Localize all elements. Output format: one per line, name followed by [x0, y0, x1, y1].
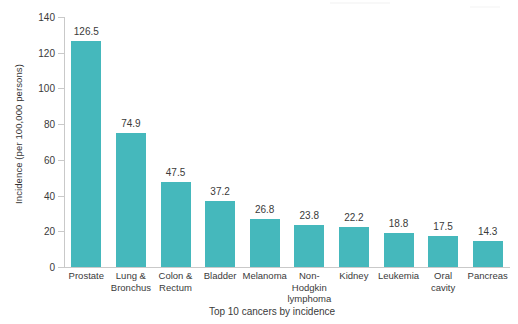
bar[interactable]	[205, 201, 235, 267]
y-axis-tick	[58, 267, 64, 268]
x-axis-title-text: Top 10 cancers by incidence	[209, 306, 335, 317]
x-axis-category-label-line: Lung &	[109, 270, 154, 282]
x-axis-category-label: Colon &Rectum	[153, 270, 198, 293]
x-axis-category-label: Non-Hodgkinlymphoma	[287, 270, 332, 305]
y-axis-tick-label: 0	[49, 262, 55, 273]
bar[interactable]	[428, 236, 458, 267]
bar-group[interactable]: 22.2	[339, 17, 369, 267]
y-axis-tick-label: 120	[38, 47, 55, 58]
bar-group[interactable]: 37.2	[205, 17, 235, 267]
x-axis-category-label-line: cavity	[421, 282, 466, 294]
bar-value-label: 22.2	[344, 212, 363, 223]
bar-group[interactable]: 126.5	[71, 17, 101, 267]
bar-chart: Incidence (per 100,000 persons) 02040608…	[0, 0, 518, 324]
x-axis-category-label: Leukemia	[376, 270, 421, 282]
bar-value-label: 17.5	[433, 221, 452, 232]
bars-layer: 126.574.947.537.226.823.822.218.817.514.…	[64, 17, 510, 267]
x-axis-category-label-line: Kidney	[332, 270, 377, 282]
bar-value-label: 74.9	[121, 118, 140, 129]
y-axis-tick-label: 20	[44, 226, 55, 237]
x-axis-category-label-line: Hodgkin	[287, 282, 332, 294]
bar-group[interactable]: 23.8	[294, 17, 324, 267]
x-axis-category-label: Prostate	[64, 270, 109, 282]
x-axis-category-label: Pancreas	[465, 270, 510, 282]
x-axis-category-labels: ProstateLung &BronchusColon &RectumBladd…	[64, 270, 510, 310]
bar[interactable]	[294, 225, 324, 268]
bar[interactable]	[71, 41, 101, 267]
bar[interactable]	[250, 219, 280, 267]
x-axis-category-label-line: Melanoma	[242, 270, 287, 282]
bar-group[interactable]: 74.9	[116, 17, 146, 267]
x-axis-category-label: Bladder	[198, 270, 243, 282]
y-axis-tick-label: 80	[44, 119, 55, 130]
bar[interactable]	[339, 227, 369, 267]
bar[interactable]	[116, 133, 146, 267]
x-axis-category-label: Oralcavity	[421, 270, 466, 293]
bar-group[interactable]: 17.5	[428, 17, 458, 267]
x-axis-category-label-line: Prostate	[64, 270, 109, 282]
bar-value-label: 37.2	[210, 186, 229, 197]
y-axis-tick-label: 60	[44, 154, 55, 165]
y-axis-title: Incidence (per 100,000 persons)	[12, 10, 26, 258]
x-axis-category-label-line: Oral	[421, 270, 466, 282]
bar-value-label: 14.3	[478, 226, 497, 237]
bar-value-label: 47.5	[166, 167, 185, 178]
x-axis-category-label: Melanoma	[242, 270, 287, 282]
x-axis-line	[64, 267, 510, 268]
y-axis-tick-label: 100	[38, 83, 55, 94]
bar-group[interactable]: 18.8	[384, 17, 414, 267]
x-axis-category-label-line: Bronchus	[109, 282, 154, 294]
x-axis-category-label-line: Bladder	[198, 270, 243, 282]
bar-value-label: 23.8	[300, 210, 319, 221]
scan-artifact	[470, 6, 500, 8]
x-axis-category-label-line: lymphoma	[287, 293, 332, 305]
bar[interactable]	[384, 233, 414, 267]
x-axis-category-label-line: Non-	[287, 270, 332, 282]
plot-area: 020406080100120140 126.574.947.537.226.8…	[64, 17, 510, 267]
bar[interactable]	[161, 182, 191, 267]
x-axis-category-label: Kidney	[332, 270, 377, 282]
x-axis-category-label: Lung &Bronchus	[109, 270, 154, 293]
bar-group[interactable]: 26.8	[250, 17, 280, 267]
bar-value-label: 126.5	[74, 26, 99, 37]
x-axis-category-label-line: Rectum	[153, 282, 198, 294]
bar-group[interactable]: 14.3	[473, 17, 503, 267]
x-axis-category-label-line: Leukemia	[376, 270, 421, 282]
scan-artifact	[330, 2, 390, 4]
y-axis-tick-label: 140	[38, 12, 55, 23]
bar-value-label: 26.8	[255, 204, 274, 215]
x-axis-category-label-line: Pancreas	[465, 270, 510, 282]
x-axis-category-label-line: Colon &	[153, 270, 198, 282]
y-axis-tick-label: 40	[44, 190, 55, 201]
bar-group[interactable]: 47.5	[161, 17, 191, 267]
x-axis-title: Top 10 cancers by incidence	[0, 306, 518, 317]
bar-value-label: 18.8	[389, 218, 408, 229]
bar[interactable]	[473, 241, 503, 267]
